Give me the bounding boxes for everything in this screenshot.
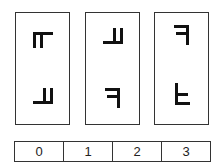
card-1	[85, 12, 140, 125]
option-0[interactable]: 0	[15, 142, 64, 161]
answer-options-strip: 0 1 2 3	[14, 141, 211, 162]
card-0	[15, 12, 70, 125]
f-mirrored-glyph-icon	[170, 23, 194, 47]
e-rotated-down-glyph-icon	[31, 30, 55, 50]
card-2	[154, 12, 209, 125]
option-3[interactable]: 3	[162, 142, 210, 161]
option-2[interactable]: 2	[113, 142, 162, 161]
e-rotated-up-glyph-icon	[101, 26, 125, 46]
f-flipped-glyph-icon	[170, 81, 194, 107]
f-mirrored-glyph-icon	[101, 86, 125, 110]
option-1[interactable]: 1	[64, 142, 113, 161]
e-rotated-up-glyph-icon	[31, 86, 55, 106]
